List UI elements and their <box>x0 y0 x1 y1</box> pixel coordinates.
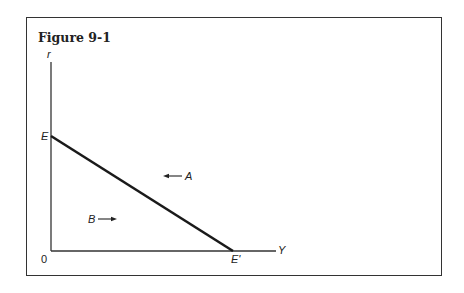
annotation-a: A <box>163 170 192 182</box>
origin-label: 0 <box>41 253 47 265</box>
label-b: B <box>88 213 95 225</box>
diagram: r Y 0 E E' A B <box>0 0 464 293</box>
arrowhead-right-icon <box>111 217 117 221</box>
point-e-label: E <box>41 130 49 142</box>
y-axis-label: r <box>47 48 52 60</box>
label-a: A <box>184 170 192 182</box>
point-e-prime-label: E' <box>231 253 241 265</box>
x-axis-label: Y <box>278 244 286 256</box>
ee-line <box>51 136 233 251</box>
arrowhead-left-icon <box>163 174 169 178</box>
annotation-b: B <box>88 213 117 225</box>
